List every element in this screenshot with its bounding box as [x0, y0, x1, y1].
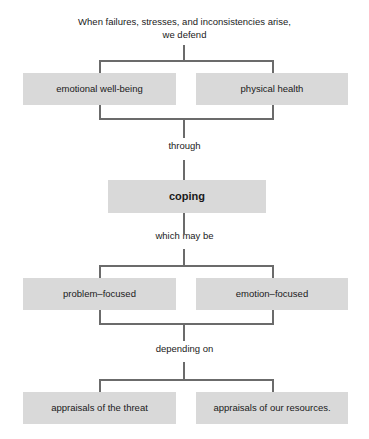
- box-emotion-focused: emotion–focused: [196, 278, 348, 310]
- box-emotional-well-being: emotional well-being: [23, 73, 176, 105]
- box-appraisals-of-the-threat-label: appraisals of the threat: [51, 402, 148, 413]
- connector-line-to-through: [183, 118, 185, 138]
- box-physical-health-label: physical health: [241, 83, 304, 94]
- bracket3-horizontal: [99, 265, 274, 267]
- bracket1-horizontal: [99, 60, 274, 62]
- box-coping-label: coping: [169, 190, 205, 203]
- box-emotion-focused-label: emotion–focused: [236, 288, 308, 299]
- coping-flow-diagram: When failures, stresses, and inconsisten…: [0, 0, 369, 439]
- box-appraisals-of-the-threat: appraisals of the threat: [23, 392, 176, 424]
- bracket5-right-drop: [272, 379, 274, 393]
- diagram-title: When failures, stresses, and inconsisten…: [0, 16, 369, 42]
- box-appraisals-of-our-resources: appraisals of our resources.: [196, 392, 348, 424]
- bracket5-horizontal: [99, 379, 274, 381]
- connector-line-title-to-bracket1: [183, 45, 185, 61]
- box-physical-health: physical health: [196, 73, 348, 105]
- box-appraisals-of-our-resources-label: appraisals of our resources.: [213, 402, 330, 413]
- connector-label-through: through: [0, 140, 369, 151]
- connector-label-which-may-be: which may be: [0, 230, 369, 241]
- bracket1-left-drop: [99, 60, 101, 74]
- connector-line-whichmaybe-to-bracket3: [183, 249, 185, 266]
- connector-line-to-dependingon: [183, 323, 185, 341]
- box-problem-focused-label: problem–focused: [63, 288, 136, 299]
- bracket3-right-drop: [272, 265, 274, 279]
- bracket4-left-rise: [99, 310, 101, 324]
- connector-line-dependingon-to-bracket5: [183, 362, 185, 380]
- bracket2-right-rise: [272, 105, 274, 119]
- box-coping: coping: [108, 180, 266, 213]
- bracket5-left-drop: [99, 379, 101, 393]
- bracket1-right-drop: [272, 60, 274, 74]
- connector-line-through-to-coping: [183, 160, 185, 180]
- connector-label-depending-on: depending on: [0, 343, 369, 354]
- bracket3-left-drop: [99, 265, 101, 279]
- box-problem-focused: problem–focused: [23, 278, 176, 310]
- bracket2-horizontal: [99, 118, 274, 120]
- box-emotional-well-being-label: emotional well-being: [56, 83, 143, 94]
- bracket4-right-rise: [272, 310, 274, 324]
- bracket2-left-rise: [99, 105, 101, 119]
- bracket4-horizontal: [99, 323, 274, 325]
